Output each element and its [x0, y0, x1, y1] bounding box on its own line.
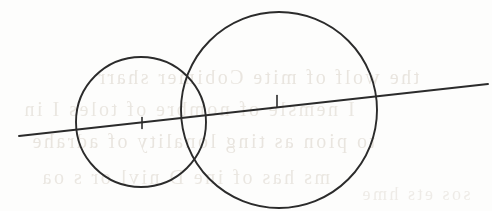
figure-canvas: the wolf of mite Cobimer sharr I nemsle … — [0, 0, 492, 211]
large-circle — [181, 12, 377, 208]
centre-line — [19, 84, 488, 136]
geometry-drawing — [0, 0, 492, 211]
